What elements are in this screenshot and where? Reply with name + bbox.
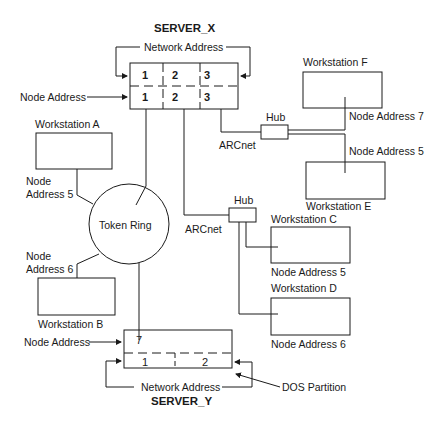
- server-x-network-cell-1: 1: [142, 69, 148, 81]
- server-y-title: SERVER_Y: [151, 395, 212, 407]
- server-y-node-address-label: Node Address: [24, 336, 90, 348]
- server-x-node-cell-3: 3: [204, 91, 210, 103]
- workstation-c-box: [271, 227, 350, 263]
- server-y-network-address-bracket-left: [106, 361, 134, 387]
- workstation-a-node-label-line2: Address 5: [26, 188, 73, 200]
- hub-2: [229, 208, 256, 222]
- network-diagram: SERVER_X Network Address Node Address 1 …: [0, 0, 446, 428]
- workstation-a-to-ring-cable: [77, 169, 93, 204]
- hub-1-arcnet-label: ARCnet: [219, 139, 256, 151]
- workstation-c-node-label: Node Address 5: [271, 266, 346, 278]
- hub-1-label: Hub: [266, 111, 285, 123]
- server-x-to-hub2-cable: [184, 109, 229, 215]
- server-x-network-cell-3: 3: [204, 69, 210, 81]
- server-x-network-address-label: Network Address: [144, 41, 223, 53]
- server-y-network-address-label: Network Address: [141, 381, 220, 393]
- workstation-b-node-label-line2: Address 6: [26, 263, 73, 275]
- server-y-network-cell-1: 1: [142, 356, 148, 368]
- workstation-d-label: Workstation D: [271, 282, 337, 294]
- workstation-e-label: Workstation E: [306, 200, 371, 212]
- workstation-d-node-label: Node Address 6: [271, 338, 346, 350]
- server-x-node-cell-1: 1: [142, 91, 148, 103]
- workstation-a-box: [36, 133, 112, 169]
- workstation-c-label: Workstation C: [271, 213, 337, 225]
- diagram-lines: [0, 0, 446, 428]
- hub-1: [261, 125, 288, 139]
- dos-partition-label: DOS Partition: [282, 381, 346, 393]
- workstation-b-node-label-line1: Node: [26, 250, 51, 262]
- dos-partition-arrow: [236, 374, 280, 387]
- token-ring-label: Token Ring: [99, 219, 152, 231]
- workstation-f-node-label: Node Address 7: [349, 110, 424, 122]
- server-x-to-hub1-cable: [221, 109, 261, 132]
- workstation-a-label: Workstation A: [35, 118, 100, 130]
- workstation-b-box: [38, 278, 115, 315]
- workstation-b-to-ring-cable: [77, 254, 99, 278]
- workstation-b-label: Workstation B: [38, 318, 103, 330]
- server-x-title: SERVER_X: [154, 22, 215, 34]
- workstation-a-node-label-line1: Node: [26, 175, 51, 187]
- workstation-f-label: Workstation F: [303, 56, 368, 68]
- workstation-d-box: [271, 298, 350, 335]
- server-x-network-cell-2: 2: [172, 69, 178, 81]
- hub2-to-workstation-c-cable: [246, 222, 278, 247]
- server-y-network-cell-2: 2: [202, 356, 208, 368]
- server-x-node-cell-2: 2: [172, 91, 178, 103]
- hub1-to-workstation-f-cable: [288, 97, 345, 130]
- server-x-to-token-ring-cable: [136, 109, 146, 205]
- workstation-e-node-label: Node Address 5: [349, 145, 424, 157]
- server-y-node-cell: 7: [136, 334, 142, 346]
- hub-2-arcnet-label: ARCnet: [185, 223, 222, 235]
- server-x-node-address-label: Node Address: [20, 91, 86, 103]
- hub-2-label: Hub: [234, 194, 253, 206]
- hub1-to-workstation-e-cable: [288, 134, 345, 173]
- workstation-f-box: [303, 72, 382, 108]
